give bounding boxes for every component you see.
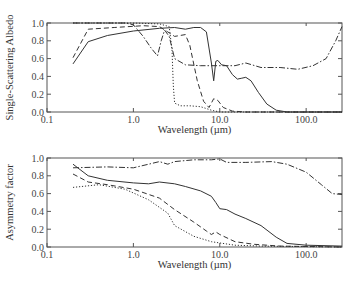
y-tick-label: 0.6 [32,188,45,199]
y-tick-label: 0.2 [32,224,45,235]
albedo-panel: 0.00.20.40.60.81.00.11.010.0100.0Wavelen… [4,15,342,136]
y-tick-label: 0.2 [32,89,45,100]
x-tick-label: 100.0 [295,114,318,125]
y-tick-label: 1.0 [32,18,45,29]
y-axis-label: Asymmetry factor [4,164,15,241]
y-tick-label: 0.8 [32,35,45,46]
x-axis-label: Wavelength (µm) [158,124,232,136]
chart-figure: 0.00.20.40.60.81.00.11.010.0100.0Wavelen… [0,0,357,283]
asymmetry-panel: 0.00.20.40.60.81.00.11.010.0100.0Wavelen… [4,153,342,272]
y-tick-label: 0.8 [32,170,45,181]
x-tick-label: 100.0 [295,249,318,260]
series-dash-dot [73,23,342,69]
x-tick-label: 1.0 [127,249,140,260]
plot-frame [47,23,342,112]
y-tick-label: 0.6 [32,53,45,64]
x-tick-label: 0.1 [41,249,54,260]
y-tick-label: 0.4 [32,206,45,217]
y-axis-label: Single-Scattering Albedo [4,15,15,121]
plot-frame [47,158,342,247]
x-tick-label: 1.0 [127,114,140,125]
y-tick-label: 1.0 [32,153,45,164]
x-axis-label: Wavelength (µm) [158,259,232,271]
series-solid [73,28,342,113]
series-dashed [73,174,342,247]
y-tick-label: 0.4 [32,71,45,82]
series-solid [73,164,342,246]
x-tick-label: 0.1 [41,114,54,125]
series-dash-dot [73,159,342,195]
